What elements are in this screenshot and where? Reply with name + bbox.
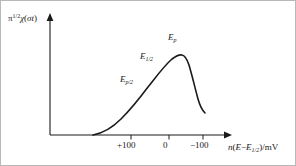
annotation-e-p-half-sub: p/2 — [126, 79, 134, 85]
y-axis-label-paren-close: ) — [34, 13, 37, 23]
annotation-e-p-half: Ep/2 — [120, 75, 133, 86]
annotation-e-p: Ep — [168, 33, 176, 44]
figure-border — [1, 1, 296, 166]
x-axis-label-units: /mV — [262, 142, 278, 152]
y-axis-label: π1/2χ(σt) — [8, 14, 37, 23]
annotation-e-p-sub: p — [174, 37, 177, 43]
y-axis-label-pi-exponent: 1/2 — [13, 13, 21, 19]
annotation-e-half-sub: 1/2 — [146, 56, 154, 62]
x-tick-label-plus100: +100 — [117, 141, 136, 150]
x-tick-label-minus100: −100 — [190, 141, 209, 150]
x-tick-label-zero: 0 — [163, 141, 168, 150]
annotation-e-half: E1/2 — [140, 52, 153, 63]
x-axis-label: n(E−E1/2)/mV — [228, 143, 278, 154]
figure-container: π1/2χ(σt) +100 0 −100 n(E−E1/2)/mV Ep E1… — [0, 0, 296, 166]
